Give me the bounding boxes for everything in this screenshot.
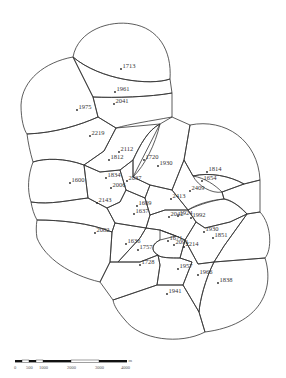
point-label: 2413 bbox=[173, 192, 186, 199]
point-label: 1812 bbox=[111, 153, 124, 160]
data-point: 1713 bbox=[120, 62, 135, 70]
data-point: 1814 bbox=[206, 165, 222, 173]
cell-1957 bbox=[157, 255, 192, 285]
point-label: 1961 bbox=[117, 85, 130, 92]
scale-seg-1 bbox=[15, 360, 22, 362]
scale-seg-2 bbox=[22, 360, 29, 362]
point-label: 1851 bbox=[215, 231, 228, 238]
point-label: 1975 bbox=[79, 103, 92, 110]
point-label: 1757 bbox=[140, 243, 154, 250]
cell-1713 bbox=[73, 23, 170, 82]
scale-seg-6 bbox=[71, 360, 99, 362]
point-label: 1654 bbox=[204, 174, 218, 181]
data-point: 1966 bbox=[197, 268, 213, 276]
point-label: 1838 bbox=[220, 276, 233, 283]
data-point: 1654 bbox=[201, 174, 217, 182]
scale-tick-4000: 4000 bbox=[121, 365, 131, 370]
data-point: 1600 bbox=[69, 176, 84, 184]
scale-tick-2000: 2000 bbox=[67, 365, 77, 370]
point-label: 2214 bbox=[186, 240, 200, 247]
point-label: 1600 bbox=[72, 176, 85, 183]
point-label: 1713 bbox=[123, 62, 136, 69]
data-point: 1757 bbox=[137, 243, 153, 251]
data-point: 1834 bbox=[105, 171, 121, 179]
point-label: 1957 bbox=[180, 262, 194, 269]
point-label: 1930 bbox=[160, 159, 173, 166]
point-label: 1966 bbox=[200, 268, 214, 275]
point-label: 1814 bbox=[209, 165, 223, 172]
cell-1975 bbox=[21, 57, 98, 134]
data-point: 2006 bbox=[110, 181, 126, 189]
scale-seg-5 bbox=[43, 360, 71, 362]
scale-tick-3000: 3000 bbox=[95, 365, 105, 370]
point-label: 2082 bbox=[97, 226, 110, 233]
data-point: 2082 bbox=[94, 226, 109, 234]
cell-1814 bbox=[184, 124, 260, 184]
data-point: 1961 bbox=[114, 85, 129, 93]
data-point: 1812 bbox=[108, 153, 123, 161]
point-label: 1720 bbox=[146, 153, 159, 160]
scale-tick-1000: 1000 bbox=[39, 365, 49, 370]
data-point: 1957 bbox=[177, 262, 193, 270]
cell-1966 bbox=[180, 240, 214, 312]
point-label: 2037 bbox=[129, 174, 143, 181]
data-point: 2041 bbox=[113, 97, 128, 105]
data-point: 1930 bbox=[157, 159, 172, 167]
cell-boundaries bbox=[21, 23, 270, 339]
scale-seg-3 bbox=[29, 360, 36, 362]
cell-right-mid bbox=[222, 180, 260, 214]
data-point: 1992 bbox=[190, 211, 205, 219]
data-point: 1851 bbox=[212, 231, 227, 239]
point-label: 2409 bbox=[192, 184, 205, 191]
cell-2041 bbox=[93, 93, 172, 128]
data-point: 2143 bbox=[96, 196, 111, 204]
scale-seg-4 bbox=[36, 360, 43, 362]
point-label: 1834 bbox=[108, 171, 122, 178]
point-label: 1728 bbox=[142, 258, 155, 265]
point-label: 1637 bbox=[136, 207, 150, 214]
point-label: 2112 bbox=[121, 145, 134, 152]
point-label: 2041 bbox=[116, 97, 129, 104]
point-label: 1609 bbox=[139, 199, 152, 206]
scale-seg-7 bbox=[99, 360, 127, 362]
point-label: 1992 bbox=[193, 211, 206, 218]
data-point: 1838 bbox=[217, 276, 232, 284]
data-point: 2413 bbox=[170, 192, 185, 200]
data-point: 1975 bbox=[76, 103, 91, 111]
scale-unit: m bbox=[129, 358, 133, 363]
scale-bar: m 0 500 1000 2000 3000 4000 bbox=[14, 358, 133, 369]
data-point: 2409 bbox=[189, 184, 204, 192]
cell-2219 bbox=[27, 117, 116, 165]
data-point: 2214 bbox=[183, 240, 199, 248]
data-point: 1720 bbox=[143, 153, 158, 161]
cell-1941 bbox=[113, 285, 205, 339]
point-label: 2006 bbox=[113, 181, 127, 188]
data-point: 1637 bbox=[133, 207, 149, 215]
scale-tick-500: 500 bbox=[26, 365, 34, 370]
data-point: 1941 bbox=[166, 287, 181, 295]
voronoi-diagram: 1713196120411975221921121812172019301814… bbox=[0, 0, 286, 378]
point-label: 2219 bbox=[92, 129, 105, 136]
point-label: 1941 bbox=[169, 287, 182, 294]
data-point: 1728 bbox=[139, 258, 154, 266]
cell-1930-upper bbox=[133, 117, 190, 190]
scale-tick-0: 0 bbox=[14, 365, 17, 370]
data-point: 2219 bbox=[89, 129, 104, 137]
data-points: 1713196120411975221921121812172019301814… bbox=[69, 62, 232, 295]
point-label: 1924 bbox=[180, 209, 194, 216]
point-label: 2143 bbox=[99, 196, 112, 203]
